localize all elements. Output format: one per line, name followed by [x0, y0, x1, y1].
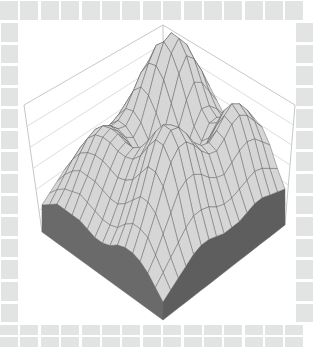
- surface-plot-canvas: [0, 0, 317, 349]
- surface-mesh: [42, 33, 285, 302]
- surface-plot-figure: [0, 0, 317, 349]
